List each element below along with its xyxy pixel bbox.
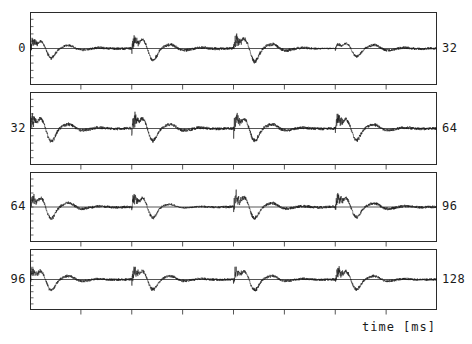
- waveform-panel-4: [30, 249, 437, 310]
- panel-4-waveform: [30, 249, 437, 310]
- panel-2-right-label: 64: [442, 121, 472, 135]
- panel-3-waveform: [30, 172, 437, 242]
- panel-1-left-label: 0: [2, 41, 26, 55]
- panel-4-tickbar: [30, 310, 437, 318]
- panel-1-waveform: [30, 12, 437, 85]
- panel-1-right-label: 32: [442, 41, 472, 55]
- panel-3-right-label: 96: [442, 199, 472, 213]
- panel-4-left-label: 96: [2, 272, 26, 286]
- waveform-panel-3: [30, 172, 437, 242]
- panel-3-left-label: 64: [2, 199, 26, 213]
- waveform-figure: 0 32 32 64 64 96 96 128 time [ms]: [0, 0, 472, 344]
- waveform-panel-1: [30, 12, 437, 85]
- panel-4-right-label: 128: [442, 272, 472, 286]
- panel-2-waveform: [30, 92, 437, 165]
- waveform-panel-2: [30, 92, 437, 165]
- x-axis-title: time [ms]: [362, 320, 436, 334]
- panel-2-left-label: 32: [2, 121, 26, 135]
